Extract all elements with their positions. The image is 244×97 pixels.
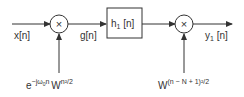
filter-label-arg: [n] bbox=[120, 18, 134, 29]
multiplier-2: × bbox=[175, 15, 193, 33]
output-label-arg: [n] bbox=[214, 30, 228, 41]
intermediate-label: g[n] bbox=[80, 30, 97, 41]
input-label: x[n] bbox=[14, 30, 30, 41]
filter-block: h1 [n] bbox=[107, 8, 142, 38]
svg-text:h1 [n]: h1 [n] bbox=[111, 18, 135, 30]
block-diagram: x[n] × g[n] h1 [n] × y1 [n] e−jω0nWn²/2 … bbox=[0, 0, 244, 97]
multiply-icon: × bbox=[56, 18, 62, 30]
modulator-2-expression: W(n − N + 1)²/2 bbox=[158, 78, 209, 91]
multiply-icon: × bbox=[181, 18, 187, 30]
modulator-1-expression: e−jω0nWn²/2 bbox=[26, 78, 73, 91]
svg-text:y1 [n]: y1 [n] bbox=[205, 30, 228, 42]
multiplier-1: × bbox=[50, 15, 68, 33]
